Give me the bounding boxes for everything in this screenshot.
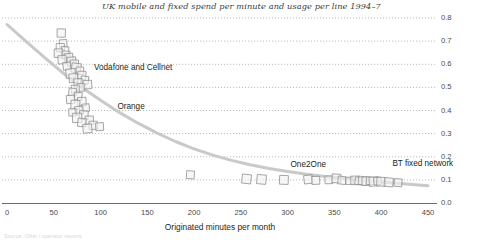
source-note: Source: Oftel / operator reports [4,233,82,239]
x-axis-tick-label: 450 [422,208,435,217]
x-axis-tick-label: 100 [94,208,107,217]
data-point[interactable] [186,171,194,179]
data-points [54,29,402,187]
series-one2one [186,171,288,185]
data-point[interactable] [312,176,320,184]
y-axis-tick-label: 0.1 [441,175,452,184]
trend-line [7,25,428,186]
series-annotation: One2One [291,160,327,169]
data-point[interactable] [257,174,267,184]
data-point[interactable] [338,176,347,185]
x-axis-tick-label: 50 [50,208,58,217]
data-point[interactable] [95,123,103,131]
y-axis-tick-label: 0.5 [441,82,452,91]
x-axis-tick-label: 200 [188,208,201,217]
x-axis-tick-label: 350 [328,208,341,217]
x-axis-tick-label: 300 [281,208,294,217]
series-vodafone-and-cellnet [54,29,92,94]
data-point[interactable] [384,178,393,187]
x-axis-tick-label: 400 [375,208,388,217]
series-annotation: Orange [117,102,144,111]
y-axis-tick-label: 0.8 [441,13,452,22]
data-point[interactable] [394,178,402,186]
y-axis-tick-label: 0.3 [441,129,452,138]
data-point[interactable] [83,124,93,134]
y-axis-tick-label: 0.4 [441,106,452,115]
data-point[interactable] [242,174,252,184]
y-axis-tick-label: 0.7 [441,36,452,45]
y-axis-tick-label: 0.0 [441,198,452,207]
series-annotation: Vodafone and Cellnet [94,63,172,72]
series-annotation: BT fixed network [392,159,453,168]
y-axis-tick-label: 0.6 [441,59,452,68]
chart-figure: UK mobile and fixed spend per minute and… [0,0,483,244]
x-axis-tick-label: 250 [235,208,248,217]
x-axis-tick-label: 150 [141,208,154,217]
data-point[interactable] [57,29,65,37]
x-axis-tick-label: 0 [5,208,9,217]
x-axis-label: Originated minutes per month [0,222,440,232]
data-point[interactable] [279,175,288,184]
